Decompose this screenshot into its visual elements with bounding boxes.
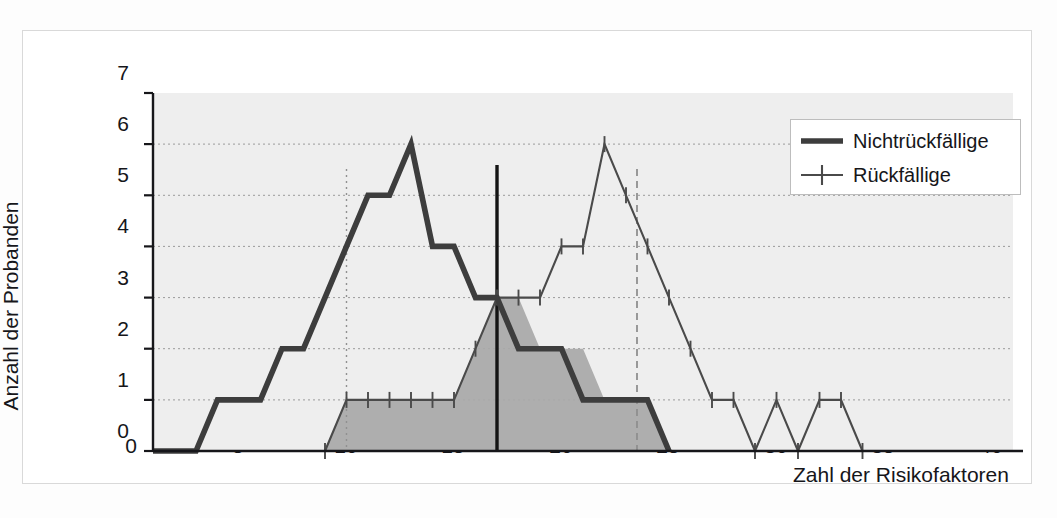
chart-svg bbox=[23, 31, 1033, 485]
y-axis-ticks bbox=[144, 93, 153, 451]
figure-container: Anzahl der Probanden 7 6 5 4 3 2 1 0 0 5… bbox=[0, 0, 1057, 518]
legend-cross-line-icon bbox=[791, 158, 853, 192]
y-axis-label: Anzahl der Probanden bbox=[0, 0, 23, 181]
legend-label-nichtrueckfaellige: Nichtrückfällige bbox=[853, 130, 989, 153]
legend-item-rueckfaellige: Rückfällige bbox=[791, 158, 1022, 192]
y-axis-label-text: Anzahl der Probanden bbox=[0, 181, 23, 431]
figure-frame: Anzahl der Probanden 7 6 5 4 3 2 1 0 0 5… bbox=[22, 30, 1032, 484]
figure-caption bbox=[24, 500, 1034, 518]
legend-label-rueckfaellige: Rückfällige bbox=[853, 164, 951, 187]
chart-legend: Nichtrückfällige Rückfällige bbox=[790, 119, 1021, 195]
legend-item-nichtrueckfaellige: Nichtrückfällige bbox=[791, 124, 1022, 158]
legend-thick-line-icon bbox=[791, 124, 853, 158]
